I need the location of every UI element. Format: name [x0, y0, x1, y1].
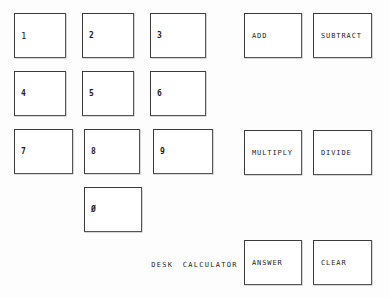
key-8[interactable]: 8 [84, 129, 140, 174]
key-4-label: 4 [21, 90, 26, 98]
page-title: DESK CALCULATOR [0, 261, 389, 269]
desk-calculator-panel: 123456789Ø ADDSUBTRACTMULTIPLYDIVIDEANSW… [0, 0, 389, 298]
key-7[interactable]: 7 [14, 129, 73, 174]
add-button-label: ADD [252, 32, 267, 39]
key-7-label: 7 [21, 148, 26, 156]
key-1-label: 1 [21, 31, 26, 40]
key-8-label: 8 [91, 148, 96, 156]
key-6[interactable]: 6 [150, 71, 206, 116]
key-5[interactable]: 5 [82, 71, 134, 116]
key-6-label: 6 [157, 90, 162, 98]
key-9-label: 9 [160, 148, 165, 156]
divide-button[interactable]: DIVIDE [313, 130, 372, 175]
multiply-button[interactable]: MULTIPLY [244, 130, 302, 175]
add-button[interactable]: ADD [244, 13, 302, 58]
key-0[interactable]: Ø [84, 187, 142, 232]
key-1[interactable]: 1 [14, 13, 66, 58]
key-9[interactable]: 9 [153, 129, 213, 174]
key-5-label: 5 [89, 90, 94, 98]
key-4[interactable]: 4 [14, 71, 66, 116]
key-2[interactable]: 2 [82, 13, 134, 58]
multiply-button-label: MULTIPLY [252, 149, 293, 156]
key-2-label: 2 [89, 32, 94, 40]
key-0-label: Ø [91, 206, 96, 214]
key-3[interactable]: 3 [150, 13, 206, 58]
key-3-label: 3 [157, 32, 162, 40]
subtract-button-label: SUBTRACT [321, 32, 362, 39]
divide-button-label: DIVIDE [321, 149, 352, 156]
subtract-button[interactable]: SUBTRACT [313, 13, 372, 58]
